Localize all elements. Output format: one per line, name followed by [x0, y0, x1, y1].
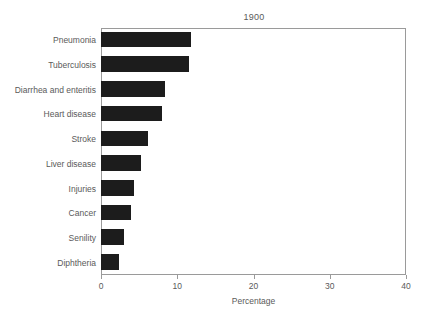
bar [101, 56, 189, 72]
x-axis-tick-label: 40 [401, 281, 410, 291]
bar [101, 229, 124, 245]
category-labels-container: PneumoniaTuberculosisDiarrhea and enteri… [0, 28, 96, 275]
x-axis-tick-label: 20 [249, 281, 258, 291]
bar-row [101, 102, 406, 127]
bar-row [101, 127, 406, 152]
x-axis-tick-mark [177, 275, 178, 279]
bar [101, 81, 165, 97]
chart-title: 1900 [101, 12, 407, 22]
x-axis-tick-label: 0 [99, 281, 104, 291]
bar-chart-figure: 1900 PneumoniaTuberculosisDiarrhea and e… [0, 0, 433, 322]
bars-container [101, 28, 406, 275]
category-label: Heart disease [0, 109, 96, 119]
x-axis-tick-mark [406, 275, 407, 279]
bar-row [101, 176, 406, 201]
bar-row [101, 152, 406, 177]
category-label: Injuries [0, 184, 96, 194]
category-label: Pneumonia [0, 35, 96, 45]
x-axis-title: Percentage [101, 296, 406, 306]
x-axis-tick-mark [101, 275, 102, 279]
bar-row [101, 226, 406, 251]
category-label: Diphtheria [0, 258, 96, 268]
x-axis-tick-mark [330, 275, 331, 279]
bar [101, 131, 148, 147]
bar [101, 254, 119, 270]
category-label: Tuberculosis [0, 60, 96, 70]
x-axis: Percentage 010203040 [101, 275, 406, 321]
bar-row [101, 201, 406, 226]
category-label: Diarrhea and enteritis [0, 85, 96, 95]
x-axis-tick-label: 10 [173, 281, 182, 291]
x-axis-tick-mark [254, 275, 255, 279]
bar [101, 32, 191, 48]
category-label: Stroke [0, 134, 96, 144]
bar-row [101, 250, 406, 275]
bar-row [101, 53, 406, 78]
bar [101, 155, 141, 171]
x-axis-tick-label: 30 [325, 281, 334, 291]
category-label: Liver disease [0, 159, 96, 169]
category-label: Cancer [0, 208, 96, 218]
bar-row [101, 77, 406, 102]
bar [101, 180, 134, 196]
bar [101, 106, 162, 122]
bar-row [101, 28, 406, 53]
bar [101, 205, 131, 221]
category-label: Senility [0, 233, 96, 243]
